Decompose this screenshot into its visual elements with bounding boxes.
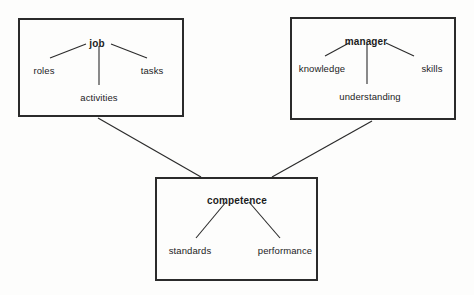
connector-job-to-competence: [98, 118, 201, 177]
node-child-label-job-2: activities: [80, 93, 117, 103]
inter-box-connectors: [98, 118, 372, 177]
node-child-label-manager-1: skills: [421, 64, 442, 74]
node-child-label-job-0: roles: [33, 66, 54, 76]
diagram-canvas: jobrolestasksactivitiesmanagerknowledges…: [0, 0, 474, 295]
node-head-label-manager: manager: [345, 37, 388, 47]
node-child-label-manager-0: knowledge: [299, 64, 345, 74]
node-child-label-competence-0: standards: [169, 246, 212, 256]
node-head-label-job: job: [89, 39, 104, 49]
connector-manager-to-competence: [272, 121, 372, 177]
node-box-competence: [155, 177, 318, 281]
node-child-label-job-1: tasks: [141, 66, 164, 76]
node-head-label-competence: competence: [207, 196, 267, 206]
node-child-label-competence-1: performance: [258, 246, 312, 256]
node-child-label-manager-2: understanding: [339, 92, 401, 102]
